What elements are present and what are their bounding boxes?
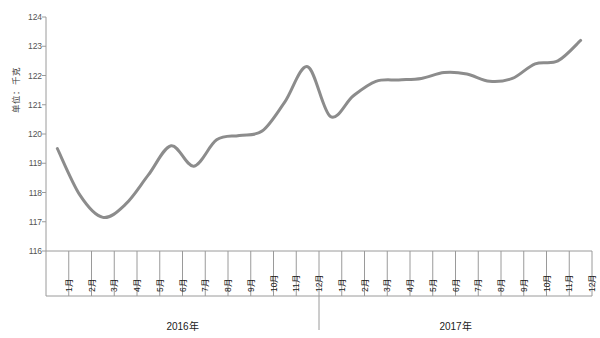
x-tick-label: 4月: [403, 278, 415, 292]
x-tick-label: 3月: [380, 278, 392, 292]
x-tick-label: 5月: [426, 278, 438, 292]
x-tick-label: 10月: [267, 274, 279, 292]
x-tick-label: 1月: [62, 278, 74, 292]
x-tick-label: 1月: [335, 278, 347, 292]
x-tick-label: 12月: [585, 274, 597, 292]
data-line: [57, 40, 580, 217]
x-tick-label: 9月: [517, 278, 529, 292]
x-tick-label: 5月: [153, 278, 165, 292]
x-tick-label: 7月: [198, 278, 210, 292]
line-chart: 单位：千克 116117118119120121122123124 1月2月3月…: [0, 0, 600, 338]
x-axis-group-label: 2016年: [166, 318, 198, 333]
x-axis-group-label: 2017年: [439, 318, 471, 333]
x-tick-label: 8月: [221, 278, 233, 292]
x-tick-label: 11月: [289, 274, 301, 292]
x-tick-label: 9月: [244, 278, 256, 292]
x-tick-label: 2月: [358, 278, 370, 292]
x-tick-label: 6月: [176, 278, 188, 292]
x-tick-label: 10月: [540, 274, 552, 292]
x-tick-label: 2月: [85, 278, 97, 292]
x-tick-label: 7月: [471, 278, 483, 292]
x-tick-label: 3月: [107, 278, 119, 292]
x-tick-label: 12月: [312, 274, 324, 292]
x-tick-label: 4月: [130, 278, 142, 292]
x-tick-label: 11月: [562, 274, 574, 292]
x-tick-label: 6月: [449, 278, 461, 292]
x-tick-label: 8月: [494, 278, 506, 292]
